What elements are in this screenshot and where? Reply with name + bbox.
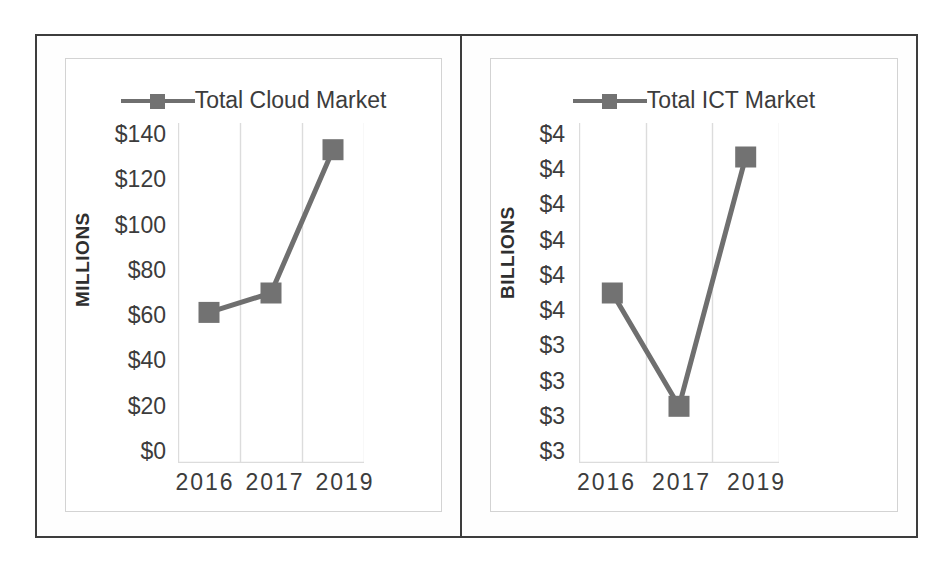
legend-marker-icon [121, 93, 195, 109]
legend-right: Total ICT Market [491, 89, 897, 112]
y-tick-label: $4 [539, 264, 565, 287]
y-tick-label: $4 [539, 229, 565, 252]
legend-label-total-ict-market: Total ICT Market [647, 89, 815, 112]
y-axis-title-left: MILLIONS [72, 212, 94, 307]
chart-plot-frame-right: Total ICT Market BILLIONS $4$4$4$4$4$4$3… [490, 58, 898, 512]
series-line [612, 157, 745, 406]
y-tick-label: $3 [539, 405, 565, 428]
y-tick-label: $80 [128, 259, 166, 282]
data-point-marker [261, 283, 282, 304]
y-axis-ticks-right: $4$4$4$4$4$4$3$3$3$3 [517, 123, 565, 463]
x-tick-label: 2017 [245, 471, 304, 494]
y-tick-label: $20 [128, 395, 166, 418]
x-tick-label: 2016 [577, 471, 636, 494]
y-tick-label: $60 [128, 304, 166, 327]
y-tick-label: $0 [140, 440, 166, 463]
x-tick-label: 2016 [175, 471, 234, 494]
data-point-marker [323, 139, 344, 160]
chart-panel-cloud-market: Total Cloud Market MILLIONS $140$120$100… [37, 36, 462, 536]
line-chart-svg-left [178, 123, 364, 463]
data-point-marker [602, 283, 623, 304]
data-point-marker [669, 396, 690, 417]
x-tick-label: 2019 [727, 471, 786, 494]
figure-frame: Total Cloud Market MILLIONS $140$120$100… [35, 34, 918, 538]
y-tick-label: $140 [115, 123, 166, 146]
y-tick-label: $4 [539, 123, 565, 146]
plot-area-right [579, 123, 779, 463]
y-axis-title-right: BILLIONS [497, 206, 519, 299]
legend-left: Total Cloud Market [66, 89, 441, 112]
x-tick-label: 2017 [652, 471, 711, 494]
line-chart-svg-right [579, 123, 779, 463]
data-point-marker [735, 147, 756, 168]
data-point-marker [199, 302, 220, 323]
y-tick-label: $3 [539, 370, 565, 393]
y-tick-label: $4 [539, 299, 565, 322]
legend-label-total-cloud-market: Total Cloud Market [195, 89, 387, 112]
y-tick-label: $120 [115, 168, 166, 191]
y-tick-label: $4 [539, 158, 565, 181]
chart-plot-frame-left: Total Cloud Market MILLIONS $140$120$100… [65, 58, 442, 512]
y-tick-label: $100 [115, 214, 166, 237]
y-tick-label: $3 [539, 440, 565, 463]
x-axis-ticks-left: 201620172019 [170, 471, 380, 494]
y-tick-label: $3 [539, 334, 565, 357]
chart-panel-ict-market: Total ICT Market BILLIONS $4$4$4$4$4$4$3… [462, 36, 916, 536]
y-tick-label: $4 [539, 193, 565, 216]
plot-area-left [178, 123, 364, 463]
x-axis-ticks-right: 201620172019 [569, 471, 794, 494]
y-tick-label: $40 [128, 349, 166, 372]
y-axis-ticks-left: $140$120$100$80$60$40$20$0 [94, 123, 166, 463]
legend-marker-icon [573, 93, 647, 109]
x-tick-label: 2019 [315, 471, 374, 494]
